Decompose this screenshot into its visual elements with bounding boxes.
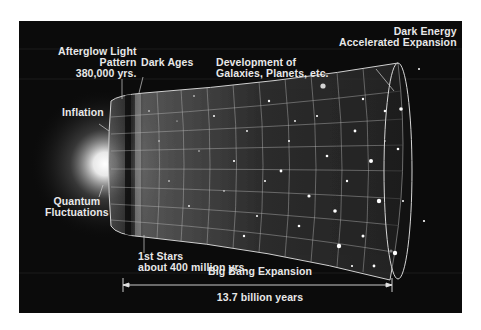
label-inflation: Inflation bbox=[62, 107, 104, 118]
timeline-arrow bbox=[123, 278, 392, 292]
label-dark-ages: Dark Ages bbox=[141, 57, 193, 68]
label-afterglow: Afterglow Light Pattern 380,000 yrs. bbox=[58, 46, 137, 79]
dark-energy-line-2: Accelerated Expansion bbox=[339, 37, 457, 48]
development-line-2: Galaxies, Planets, etc. bbox=[216, 68, 329, 79]
universe-diagram-panel: Afterglow Light Pattern 380,000 yrs. Dar… bbox=[19, 21, 462, 313]
label-duration: 13.7 billion years bbox=[205, 292, 315, 303]
label-dark-energy: Dark Energy Accelerated Expansion bbox=[339, 26, 457, 48]
quantum-line-2: Fluctuations bbox=[45, 207, 109, 218]
afterglow-line-3: 380,000 yrs. bbox=[58, 68, 137, 79]
label-big-bang-expansion: Big Bang Expansion bbox=[205, 266, 315, 277]
label-development: Development of Galaxies, Planets, etc. bbox=[216, 57, 329, 79]
label-quantum-fluctuations: Quantum Fluctuations bbox=[45, 196, 109, 218]
